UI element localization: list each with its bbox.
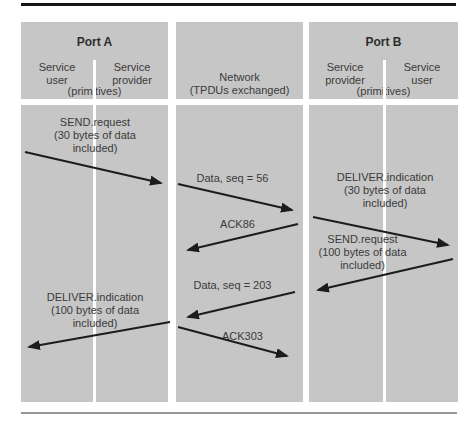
ack86-label: ACK86: [175, 218, 300, 231]
port-a-service-provider-label: Service provider: [96, 61, 168, 87]
port-b-title: Port B: [309, 35, 458, 49]
data-seq-56-label: Data, seq = 56: [170, 172, 295, 185]
send-request-30-label: SEND.request (30 bytes of data included): [25, 116, 165, 154]
port-a-title: Port A: [21, 35, 168, 49]
port-b-vertical-divider: [383, 60, 386, 402]
data-seq-203-label: Data, seq = 203: [170, 279, 295, 292]
port-b-column: Port B Service provider Service user (pr…: [309, 22, 458, 402]
port-b-service-user-label: Service user: [386, 61, 458, 87]
bottom-rule: [21, 412, 457, 414]
tpdu-exchange-diagram: Port A Service user Service provider (pr…: [0, 0, 470, 423]
port-a-column: Port A Service user Service provider (pr…: [21, 22, 168, 402]
network-title: Network: [176, 71, 303, 84]
network-column: Network (TPDUs exchanged): [176, 22, 303, 402]
network-header-separator: [176, 99, 303, 105]
network-subtitle: (TPDUs exchanged): [176, 84, 303, 96]
deliver-indication-100-label: DELIVER.indication (100 bytes of data in…: [25, 291, 165, 329]
port-a-service-user-label: Service user: [21, 61, 93, 87]
port-a-vertical-divider: [93, 60, 96, 402]
ack303-label: ACK303: [180, 330, 305, 343]
send-request-100-label: SEND.request (100 bytes of data included…: [295, 233, 430, 271]
port-b-service-provider-label: Service provider: [309, 61, 381, 87]
deliver-indication-30-label: DELIVER.indication (30 bytes of data inc…: [315, 171, 455, 209]
top-rule: [21, 3, 456, 6]
